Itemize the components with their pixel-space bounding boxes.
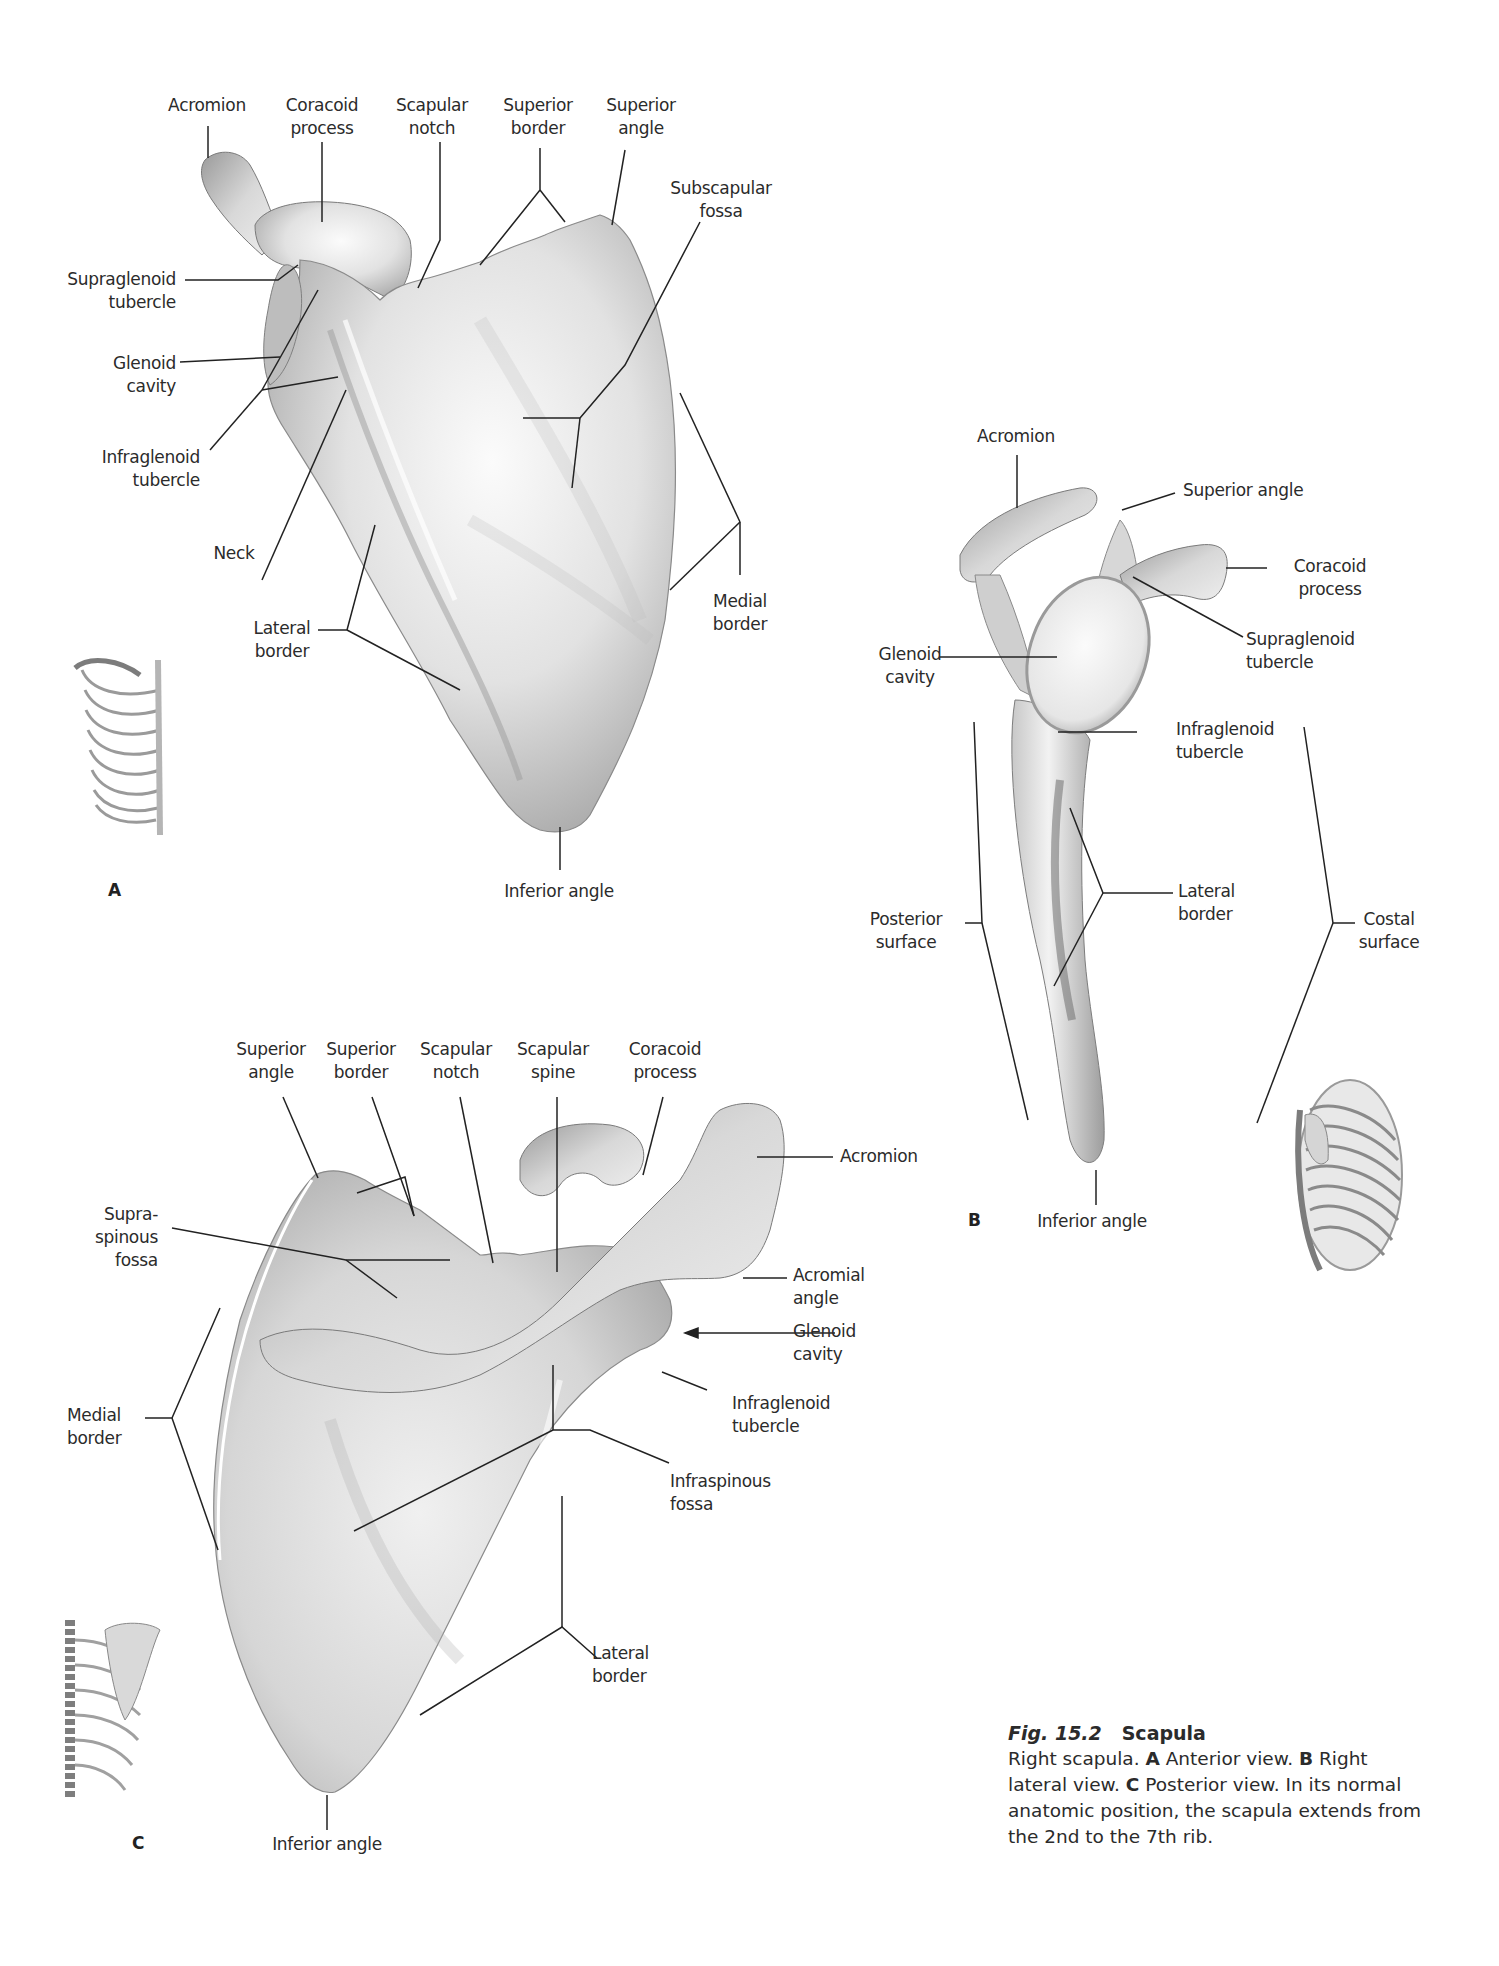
label-b-coracoid-process: Coracoid process xyxy=(1294,555,1367,601)
label-a-inferior-angle: Inferior angle xyxy=(504,880,614,903)
panel-b-bone xyxy=(960,488,1227,1163)
ribcage-thumbnail-b xyxy=(1298,1080,1402,1270)
label-a-lateral-border: Lateral border xyxy=(253,617,310,663)
label-b-infraglenoid-tubercle: Infraglenoid tubercle xyxy=(1176,718,1274,764)
label-a-superior-border: Superior border xyxy=(503,94,573,140)
panel-letter-a: A xyxy=(108,880,121,900)
label-a-scapular-notch: Scapular notch xyxy=(396,94,468,140)
label-b-costal-surface: Costal surface xyxy=(1359,908,1420,954)
label-a-superior-angle: Superior angle xyxy=(606,94,676,140)
label-c-superior-border: Superior border xyxy=(326,1038,396,1084)
label-b-supraglenoid-tubercle: Supraglenoid tubercle xyxy=(1246,628,1355,674)
scapula-figure: Acromion Coracoid process Scapular notch… xyxy=(0,0,1499,1966)
panel-a-bone xyxy=(201,152,675,832)
label-c-infraglenoid-tubercle: Infraglenoid tubercle xyxy=(732,1392,830,1438)
label-c-supraspinous-fossa: Supra- spinous fossa xyxy=(95,1203,158,1272)
ribcage-thumbnail-c xyxy=(70,1620,160,1800)
label-b-lateral-border: Lateral border xyxy=(1178,880,1235,926)
label-b-acromion: Acromion xyxy=(977,425,1055,448)
label-c-acromion: Acromion xyxy=(840,1145,918,1168)
label-a-medial-border: Medial border xyxy=(713,590,767,636)
label-b-glenoid-cavity: Glenoid cavity xyxy=(879,643,942,689)
ribcage-thumbnail-a xyxy=(75,660,160,835)
figure-artwork xyxy=(0,0,1499,1966)
label-c-lateral-border: Lateral border xyxy=(592,1642,649,1688)
label-a-neck: Neck xyxy=(213,542,254,565)
label-b-inferior-angle: Inferior angle xyxy=(1037,1210,1147,1233)
label-a-acromion: Acromion xyxy=(168,94,246,117)
label-a-coracoid-process: Coracoid process xyxy=(286,94,359,140)
label-c-superior-angle: Superior angle xyxy=(236,1038,306,1084)
label-b-superior-angle: Superior angle xyxy=(1183,479,1303,502)
label-c-coracoid-process: Coracoid process xyxy=(629,1038,702,1084)
label-a-supraglenoid-tubercle: Supraglenoid tubercle xyxy=(67,268,176,314)
panel-letter-c: C xyxy=(132,1833,144,1853)
label-c-infraspinous-fossa: Infraspinous fossa xyxy=(670,1470,771,1516)
panel-letter-b: B xyxy=(968,1210,981,1230)
caption-body: Right scapula. A Anterior view. B Right … xyxy=(1008,1746,1428,1850)
label-a-glenoid-cavity: Glenoid cavity xyxy=(113,352,176,398)
label-c-inferior-angle: Inferior angle xyxy=(272,1833,382,1856)
label-c-acromial-angle: Acromial angle xyxy=(793,1264,865,1310)
label-a-infraglenoid-tubercle: Infraglenoid tubercle xyxy=(102,446,200,492)
panel-c-bone xyxy=(214,1103,784,1792)
caption-title: Fig. 15.2 Scapula xyxy=(1008,1720,1428,1746)
caption-figure-title: Scapula xyxy=(1122,1722,1206,1744)
label-b-posterior-surface: Posterior surface xyxy=(870,908,942,954)
figure-caption: Fig. 15.2 Scapula Right scapula. A Anter… xyxy=(1008,1720,1428,1850)
label-c-medial-border: Medial border xyxy=(67,1404,121,1450)
caption-figure-number: Fig. 15.2 xyxy=(1008,1722,1102,1744)
label-c-glenoid-cavity: Glenoid cavity xyxy=(793,1320,856,1366)
label-a-subscapular-fossa: Subscapular fossa xyxy=(670,177,771,223)
label-c-scapular-notch: Scapular notch xyxy=(420,1038,492,1084)
label-c-scapular-spine: Scapular spine xyxy=(517,1038,589,1084)
